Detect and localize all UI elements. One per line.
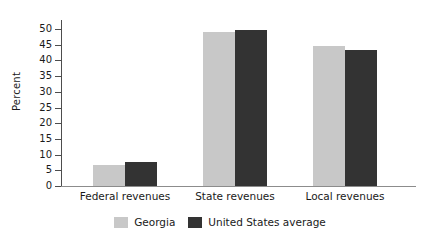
- plot-area: 05101520253035404550 Federal revenuesSta…: [0, 0, 440, 249]
- y-axis-tick-label-wrap: 40: [24, 55, 52, 65]
- y-axis-tick-mark: [55, 60, 61, 61]
- x-axis-line: [61, 186, 416, 187]
- bar-local-revenues-georgia: [313, 46, 345, 186]
- y-axis-tick-mark: [55, 76, 61, 77]
- y-axis-tick-label: 40: [28, 55, 52, 65]
- bar-state-revenues-united-states-average: [235, 30, 267, 186]
- bar-federal-revenues-united-states-average: [125, 162, 157, 186]
- y-axis-tick-label-wrap: 50: [24, 24, 52, 34]
- legend-item-united-states-average: United States average: [188, 216, 325, 228]
- x-axis-label-federal-revenues: Federal revenues: [65, 190, 185, 203]
- chart-legend: GeorgiaUnited States average: [0, 216, 440, 228]
- bar-chart: Percent 05101520253035404550 Federal rev…: [0, 0, 440, 249]
- y-axis-tick-mark: [55, 29, 61, 30]
- y-axis-tick-mark: [55, 155, 61, 156]
- y-axis-tick-label: 30: [28, 87, 52, 97]
- y-axis-tick-mark: [55, 123, 61, 124]
- legend-label: Georgia: [134, 216, 175, 228]
- y-axis-tick-label-wrap: 5: [24, 165, 52, 175]
- y-axis-tick-label: 0: [28, 181, 52, 191]
- y-axis-tick-mark: [55, 186, 61, 187]
- y-axis-tick-label: 35: [28, 71, 52, 81]
- y-axis-tick-label-wrap: 20: [24, 118, 52, 128]
- legend-swatch-icon: [114, 217, 128, 228]
- y-axis-tick-label: 5: [28, 165, 52, 175]
- bar-state-revenues-georgia: [203, 32, 235, 186]
- y-axis-tick-mark: [55, 45, 61, 46]
- y-axis-tick-label-wrap: 25: [24, 103, 52, 113]
- legend-label: United States average: [208, 216, 325, 228]
- bar-local-revenues-united-states-average: [345, 50, 377, 186]
- y-axis-tick-label: 10: [28, 150, 52, 160]
- legend-swatch-icon: [188, 217, 202, 228]
- y-axis-tick-label: 50: [28, 24, 52, 34]
- y-axis-tick-label-wrap: 15: [24, 134, 52, 144]
- y-axis-tick-label: 45: [28, 40, 52, 50]
- legend-item-georgia: Georgia: [114, 216, 175, 228]
- y-axis-tick-label-wrap: 10: [24, 150, 52, 160]
- bar-federal-revenues-georgia: [93, 165, 125, 186]
- y-axis-tick-label-wrap: 0: [24, 181, 52, 191]
- y-axis-tick-label: 25: [28, 103, 52, 113]
- x-axis-label-local-revenues: Local revenues: [285, 190, 405, 203]
- y-axis-tick-label: 15: [28, 134, 52, 144]
- y-axis-tick-mark: [55, 139, 61, 140]
- y-axis-tick-mark: [55, 92, 61, 93]
- y-axis-tick-label-wrap: 45: [24, 40, 52, 50]
- y-axis-tick-label: 20: [28, 118, 52, 128]
- y-axis-tick-mark: [55, 108, 61, 109]
- y-axis-tick-mark: [55, 170, 61, 171]
- y-axis-line: [61, 20, 62, 187]
- y-axis-tick-label-wrap: 35: [24, 71, 52, 81]
- x-axis-label-state-revenues: State revenues: [175, 190, 295, 203]
- y-axis-tick-label-wrap: 30: [24, 87, 52, 97]
